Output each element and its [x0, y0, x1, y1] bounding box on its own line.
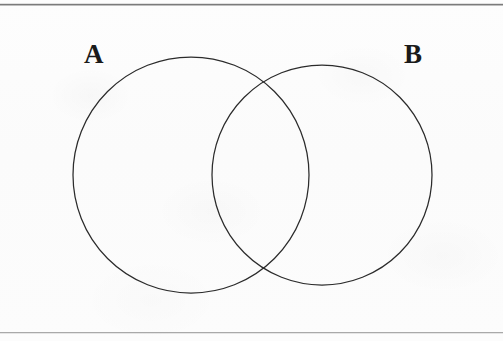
- circle-set-a: [73, 57, 309, 293]
- venn-circles-canvas: [0, 0, 503, 341]
- bottom-divider-rule: [0, 332, 503, 333]
- set-label-b: B: [404, 41, 423, 68]
- venn-diagram-figure: A B: [0, 0, 503, 341]
- circle-set-b: [212, 65, 432, 285]
- set-label-a: A: [84, 41, 104, 68]
